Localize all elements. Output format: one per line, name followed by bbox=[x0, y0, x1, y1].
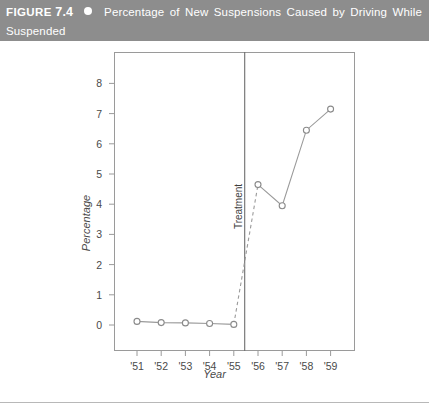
figure-title-line2: Suspended bbox=[6, 22, 423, 41]
figure-title-line2-row: Suspended bbox=[6, 22, 423, 41]
data-point-marker bbox=[231, 321, 237, 327]
figure-header-bar: FIGURE 7.4 Percentage of New Suspensions… bbox=[0, 0, 429, 41]
filled-circle-icon bbox=[84, 7, 92, 15]
x-axis-title: Year bbox=[0, 368, 429, 380]
figure-title-line1: Percentage of New Suspensions Caused by … bbox=[104, 6, 422, 18]
y-tick-label: 8 bbox=[80, 77, 102, 89]
data-point-marker bbox=[207, 321, 213, 327]
bottom-divider bbox=[0, 402, 429, 403]
figure-label: FIGURE bbox=[6, 6, 52, 18]
y-axis-ticks bbox=[109, 83, 114, 325]
y-axis-title: Percentage bbox=[80, 195, 92, 251]
y-tick-label: 1 bbox=[80, 289, 102, 301]
data-point-marker bbox=[255, 182, 261, 188]
chart-area: 012345678 '51'52'53'54'55'56'57'58'59 Pe… bbox=[0, 41, 429, 386]
data-point-marker bbox=[182, 320, 188, 326]
data-point-marker bbox=[303, 127, 309, 133]
series-line-post-treatment bbox=[258, 109, 331, 206]
data-point-marker bbox=[158, 320, 164, 326]
y-tick-label: 5 bbox=[80, 168, 102, 180]
x-axis-ticks bbox=[137, 351, 331, 356]
y-tick-label: 7 bbox=[80, 108, 102, 120]
y-tick-label: 2 bbox=[80, 259, 102, 271]
figure-header-line: FIGURE 7.4 Percentage of New Suspensions… bbox=[6, 3, 423, 22]
y-tick-label: 0 bbox=[80, 319, 102, 331]
treatment-annotation-label: Treatment bbox=[232, 172, 243, 242]
figure-number: 7.4 bbox=[55, 5, 73, 19]
data-point-marker bbox=[328, 106, 334, 112]
chart-svg bbox=[0, 41, 429, 386]
y-tick-label: 6 bbox=[80, 138, 102, 150]
data-point-marker bbox=[134, 318, 140, 324]
data-point-marker bbox=[279, 203, 285, 209]
